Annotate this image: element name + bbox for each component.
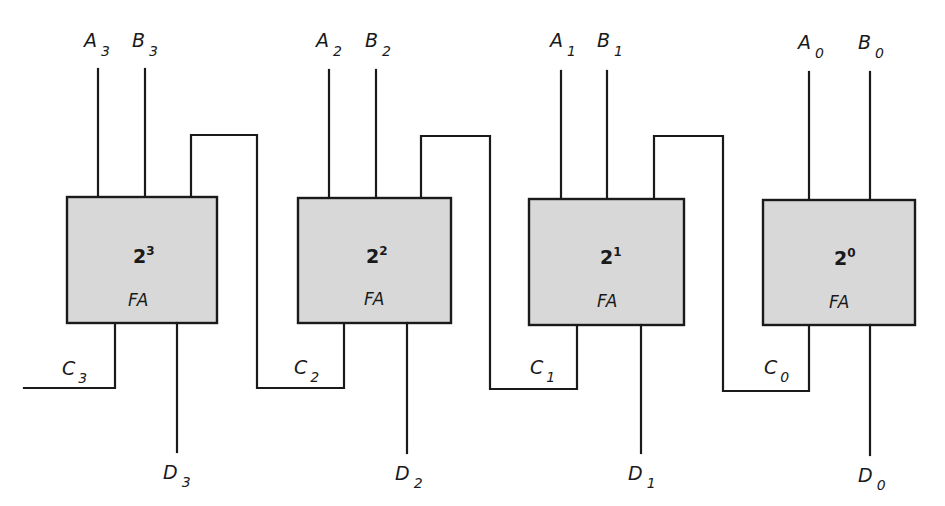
carry-c0-label: C0	[764, 356, 789, 385]
sum-d2-label: D2	[395, 462, 423, 491]
sum-d1-label: D1	[628, 462, 656, 491]
adder-type-label: FA	[364, 289, 384, 309]
input-b1-label: B1	[597, 29, 623, 59]
full-adder-2-1: 21 FA A1 B1 C1 D1	[529, 29, 684, 491]
sum-d3-label: D3	[163, 461, 191, 490]
carry-c2-label: C2	[294, 356, 319, 385]
input-b0-label: B0	[858, 31, 884, 61]
full-adder-2-2: 22 FA A2 B2 C2 D2	[294, 29, 451, 491]
input-b2-label: B2	[365, 29, 391, 59]
input-a2-label: A2	[314, 29, 342, 59]
input-a0-label: A0	[796, 31, 824, 61]
full-adder-chain-diagram: 23 FA A3 B3 C3 D3 22 FA A2 B2 C2 D2 21 F…	[0, 0, 945, 506]
sum-d0-label: D0	[858, 464, 886, 493]
adder-type-label: FA	[597, 291, 617, 311]
adder-type-label: FA	[829, 292, 849, 312]
adder-type-label: FA	[128, 290, 148, 310]
input-a3-label: A3	[82, 29, 110, 59]
full-adder-2-0: 20 FA A0 B0 C0 D0	[763, 31, 915, 493]
full-adder-2-3: 23 FA A3 B3 C3 D3	[24, 29, 217, 490]
input-b3-label: B3	[132, 29, 158, 59]
carry-c3-label: C3	[62, 357, 87, 386]
carry-c1-label: C1	[530, 356, 555, 385]
input-a1-label: A1	[548, 29, 576, 59]
